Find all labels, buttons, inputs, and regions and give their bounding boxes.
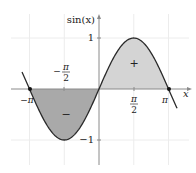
y-tick-label-neg-1: −1: [79, 134, 94, 145]
x-axis-label: x: [183, 88, 189, 99]
svg-text:2: 2: [63, 73, 69, 83]
svg-text:2: 2: [131, 105, 137, 115]
negative-sign: −: [61, 108, 70, 121]
x-tick-label-pi: π: [161, 95, 169, 105]
svg-text:π: π: [62, 62, 70, 72]
positive-sign: +: [129, 57, 138, 70]
x-tick-label-neg-half-pi: − π 2: [53, 62, 70, 83]
x-tick-label-half-pi: π 2: [130, 94, 138, 115]
x-tick-label-neg-pi: −π: [20, 95, 35, 105]
sine-chart: sin(x) x 1 −1 −π π π 2 − π 2 + −: [0, 0, 196, 173]
point-pi: [167, 87, 171, 91]
y-tick-label-1: 1: [88, 32, 94, 43]
point-neg-pi: [28, 87, 32, 91]
y-axis-arrow-icon: [97, 14, 101, 19]
y-axis-label: sin(x): [67, 14, 95, 25]
svg-text:−: −: [53, 66, 61, 76]
svg-text:π: π: [130, 94, 138, 104]
